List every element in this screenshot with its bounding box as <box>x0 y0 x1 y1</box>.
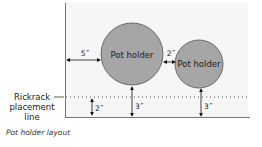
pot-holder-layout-diagram: Pot holder Pot holder 5˝ 2˝ 2˝ 3˝ 3˝ Ric… <box>0 0 262 147</box>
left-margin-measurement: 5˝ <box>81 49 90 58</box>
pot-holder-label-large: Pot holder <box>110 50 154 60</box>
large-circle-edge-measurement: 3˝ <box>135 102 144 111</box>
rickrack-edge-measurement: 2˝ <box>95 104 104 113</box>
figure-caption: Pot holder layout <box>6 128 70 137</box>
small-circle-edge-measurement: 3˝ <box>204 102 213 111</box>
gap-measurement: 2˝ <box>167 49 176 58</box>
rickrack-label-line1: Rickrack <box>14 92 50 102</box>
rickrack-label-line3: line <box>24 112 39 122</box>
rickrack-label-line2: placement <box>9 102 55 112</box>
pot-holder-label-small: Pot holder <box>177 59 221 69</box>
